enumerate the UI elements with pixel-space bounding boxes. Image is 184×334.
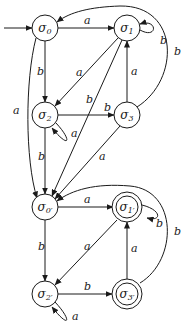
edge-label-s3-s1: a	[131, 65, 138, 78]
edge-label-s0-s0p: a	[13, 104, 20, 117]
state-s2-prime: σ2′	[32, 281, 58, 307]
edge-label-s0-s2: b	[37, 65, 44, 78]
edge-label-s1p-s2p: a	[84, 240, 91, 253]
edge-label-s3-s0p: a	[99, 150, 106, 163]
state-s0: σ0	[32, 15, 58, 41]
state-s1-prime-accepting: σ1′	[112, 192, 142, 222]
state-s1: σ1	[114, 15, 140, 41]
edge-label-s1p-loop: b	[156, 217, 163, 230]
edge-label-s2-s0p: b	[38, 150, 45, 163]
state-s3: σ3	[114, 102, 140, 128]
state-s3-prime-accepting: σ3′	[112, 279, 142, 309]
edge-label-s1-s2: a	[76, 66, 83, 79]
edge-label-s2-loop: a	[71, 127, 78, 140]
state-diagram: a b a b a b b a b a b a a b b a b a a b …	[0, 0, 184, 334]
edge-s1-loop	[140, 23, 154, 33]
edge-label-s3p-s0p: b	[174, 225, 181, 238]
edge-label-s0p-s2p: b	[38, 240, 45, 253]
state-s0-prime: σ0′	[32, 194, 58, 220]
edge-s2-loop	[52, 123, 67, 141]
edge-label-s0-s1: a	[84, 14, 91, 27]
edge-label-s0p-s1p: a	[84, 193, 91, 206]
edge-s2p-loop	[52, 302, 67, 320]
edge-label-s2p-s3p: b	[84, 280, 91, 293]
edge-label-s2-s3: b	[104, 101, 111, 114]
edge-label-s3p-s1p: a	[131, 242, 138, 255]
state-s2: σ2	[32, 102, 58, 128]
edge-s1-s0p	[52, 40, 122, 196]
edge-label-s3-s0: b	[174, 45, 181, 58]
edge-label-s2p-loop: a	[72, 310, 79, 323]
edge-s3p-s0p	[57, 185, 167, 283]
edge-s3-s0	[57, 6, 167, 107]
edge-label-s1-s0p: b	[86, 93, 93, 106]
